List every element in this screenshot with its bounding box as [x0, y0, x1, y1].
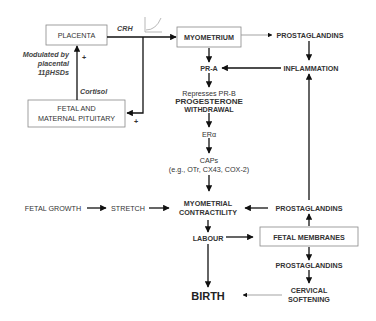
modulated-label-2: placental	[37, 59, 70, 68]
prostaglandins-mid-label: PROSTAGLANDINS	[276, 204, 343, 213]
cervical-label-2: SOFTENING	[288, 295, 330, 304]
contractility-label-2: CONTRACTILITY	[179, 208, 237, 217]
crh-to-pituitary-arrow	[127, 37, 143, 113]
inflammation-label: INFLAMMATION	[284, 64, 339, 73]
stretch-label: STRETCH	[111, 204, 145, 213]
contractility-label-1: MYOMETRIAL	[184, 199, 233, 208]
cervical-label-1: CERVICAL	[291, 286, 328, 295]
prostaglandins-low-label: PROSTAGLANDINS	[276, 261, 343, 270]
pra-label: PR-A	[200, 64, 218, 73]
pituitary-label-2: MATERNAL PITUITARY	[38, 114, 115, 123]
pituitary-label-1: FETAL AND	[57, 104, 95, 113]
prostaglandins-top-label: PROSTAGLANDINS	[277, 31, 344, 40]
plus-sign-top: +	[82, 53, 86, 62]
fetal-membranes-label: FETAL MEMBRANES	[273, 233, 345, 242]
cortisol-label: Cortisol	[80, 87, 108, 96]
modulated-label-3: 11βHSDs	[38, 68, 69, 77]
caps-label: CAPs	[200, 156, 219, 165]
caps-examples-label: (e.g., OTr, CX43, COX-2)	[169, 165, 249, 174]
withdrawal-label: WITHDRAWAL	[184, 105, 234, 114]
labour-pathway-diagram: PLACENTA MYOMETRIUM PROSTAGLANDINS FETAL…	[0, 0, 376, 321]
plus-sign-bottom: +	[134, 117, 138, 126]
myometrium-label: MYOMETRIUM	[184, 33, 234, 42]
exponential-curve-icon	[145, 17, 162, 32]
labour-label: LABOUR	[193, 234, 225, 243]
modulated-label-1: Modulated by	[23, 50, 70, 59]
era-label: ERα	[202, 130, 216, 139]
placenta-label: PLACENTA	[58, 31, 96, 40]
crh-label: CRH	[117, 24, 133, 33]
birth-label: BIRTH	[191, 290, 225, 302]
fetal-growth-label: FETAL GROWTH	[25, 204, 81, 213]
